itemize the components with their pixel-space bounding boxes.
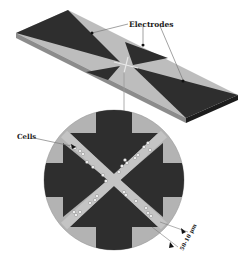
cells-label: Cells [17, 132, 36, 141]
gap-width-label: 50-10 μm [179, 223, 199, 252]
dimension-arrow-icon [169, 242, 174, 248]
magnified-circular-view [44, 110, 186, 252]
electrode-chip-diagram: Electrodes [0, 0, 249, 260]
electrodes-label: Electrodes [129, 20, 174, 29]
